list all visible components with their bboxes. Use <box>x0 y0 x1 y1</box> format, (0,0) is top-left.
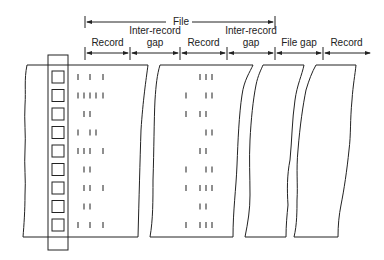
segment-arrows <box>85 47 370 60</box>
label-inter-record-gap-1-line2: gap <box>130 37 180 48</box>
track-cell <box>52 164 64 176</box>
label-inter-record-gap-2-line1: Inter-record <box>221 25 281 36</box>
track-cell <box>52 145 64 157</box>
label-record-3: Record <box>323 37 370 48</box>
track-cell <box>52 219 64 231</box>
tape-segment-3 <box>245 65 304 237</box>
track-cell <box>52 90 64 102</box>
track-cell <box>52 71 64 83</box>
track-cell <box>52 201 64 213</box>
label-inter-record-gap-2-line2: gap <box>227 37 275 48</box>
label-record-2: Record <box>180 37 227 48</box>
label-record-1: Record <box>85 37 130 48</box>
track-cells <box>52 71 64 231</box>
tape-segment-4 <box>294 65 356 237</box>
track-cell <box>52 108 64 120</box>
label-file-gap: File gap <box>275 37 323 48</box>
track-cell <box>52 182 64 194</box>
tape-segment-1 <box>23 65 148 237</box>
label-inter-record-gap-1-line1: Inter-record <box>125 25 185 36</box>
tape-segment-2 <box>150 65 253 237</box>
track-cell <box>52 127 64 139</box>
